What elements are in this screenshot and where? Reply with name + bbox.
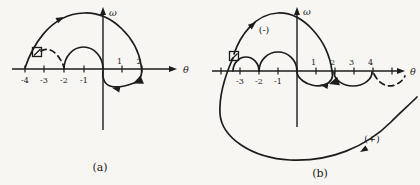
tick-label: 3 (349, 58, 354, 67)
theta-axis-arrow-icon (169, 66, 177, 72)
tick-label: -3 (40, 76, 48, 85)
negative-branch-label: (-) (259, 24, 270, 35)
tick-label: -1 (80, 76, 88, 85)
omega-axis-label: ω (109, 7, 117, 18)
panel-b: -3 -2 -1 1 2 3 4 ω θ (-) (+) (212, 6, 417, 180)
theta-axis-label: θ (410, 66, 416, 77)
tick-label: -2 (60, 76, 68, 85)
contour-dashed-segment-a (41, 49, 64, 67)
omega-axis-label: ω (303, 6, 311, 17)
direction-arrow-bottom-icon (359, 145, 369, 154)
panel-caption-b: (b) (312, 167, 328, 180)
omega-axis-arrow-icon (100, 7, 106, 15)
theta-axis-arrow-icon (397, 68, 405, 74)
tick-label: 1 (311, 58, 316, 67)
contour-bump1-b (233, 57, 259, 71)
contour-lower-semicircle-b (334, 72, 372, 86)
panel-caption-a: (a) (92, 161, 107, 174)
contour-figure: -4 -3 -2 -1 1 2 ω θ (a) (0, 0, 420, 185)
tick-label: -3 (236, 77, 244, 86)
contour-top-arc-b (234, 13, 333, 86)
panel-a: -4 -3 -2 -1 1 2 ω θ (a) (12, 7, 189, 174)
tick-label: -2 (255, 77, 263, 86)
contour-dashed-segment-b (374, 74, 405, 86)
tick-label: 1 (117, 57, 122, 66)
tick-label: -4 (21, 76, 29, 85)
tick-label: -1 (274, 77, 282, 86)
contour-bottom-arc-b (220, 58, 417, 160)
triangle-marker-a (131, 75, 144, 87)
theta-axis-label: θ (183, 64, 189, 75)
figure-canvas: -4 -3 -2 -1 1 2 ω θ (a) (0, 0, 420, 185)
positive-branch-label: (+) (364, 133, 379, 144)
omega-axis-arrow-icon (294, 7, 300, 15)
tick-label: 4 (368, 58, 373, 67)
